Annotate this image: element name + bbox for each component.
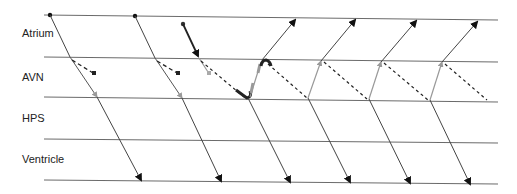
retrograde-avn (369, 62, 381, 99)
retrograde-atrial (262, 20, 295, 60)
echo-3 (430, 22, 487, 184)
echo-2 (369, 21, 428, 183)
hps-ventricle-conduction (369, 99, 410, 183)
hps-ventricle-conduction (248, 98, 290, 182)
atrial-conduction (135, 16, 155, 58)
tier-label-avn: AVN (22, 71, 44, 83)
retrograde-atrial (442, 22, 477, 62)
tier-line-hps-ventricle (44, 139, 498, 143)
hps-ventricle-conduction (182, 98, 221, 181)
avn-slow-pathway (445, 64, 487, 100)
retrograde-avn (308, 61, 321, 98)
block-marker (207, 71, 211, 75)
retrograde-marker-lower (251, 83, 253, 93)
retrograde-atrial (321, 20, 355, 61)
block-marker (176, 71, 180, 75)
avn-fast-pathway (70, 57, 97, 97)
avn-blocked-pathway (72, 60, 93, 73)
beat-2 (133, 14, 221, 181)
tier-line-top (44, 15, 498, 20)
tier-line-atrium-avn (44, 57, 498, 62)
avn-fast-pathway (155, 58, 182, 98)
turnaround-hook-lower (236, 90, 251, 98)
atrial-conduction (183, 24, 198, 56)
retrograde-avn (430, 62, 442, 100)
retrograde-atrial (381, 21, 416, 62)
tier-label-atrium: Atrium (22, 27, 54, 39)
tier-label-ventricle: Ventricle (22, 153, 64, 165)
avn-blocked-pathway (157, 61, 177, 73)
avn-slow-pathway (324, 62, 367, 99)
beat-3 (181, 20, 307, 182)
avn-slow-pathway-echo (268, 64, 307, 98)
block-marker (92, 71, 96, 75)
avn-slow-pathway (384, 63, 428, 100)
tier-label-hps: HPS (22, 112, 45, 124)
hps-ventricle-conduction (97, 97, 141, 180)
hps-ventricle-conduction (308, 98, 350, 182)
tier-line-bottom (44, 180, 498, 184)
ladder-diagram: Atrium AVN HPS Ventricle (0, 0, 517, 194)
